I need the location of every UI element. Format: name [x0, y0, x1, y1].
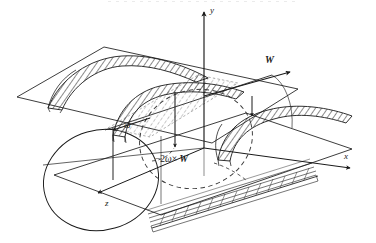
vector-label-w: W: [265, 55, 274, 65]
axis-label-y: y: [210, 6, 214, 15]
coriolis-vector: W: [180, 154, 188, 164]
vector-label-omega: ω: [124, 121, 130, 130]
diagram-canvas: [0, 0, 376, 243]
figure-container: y x z W ω −2ω× W: [0, 0, 376, 243]
axis-label-x: x: [344, 152, 348, 161]
coriolis-omega: ω: [165, 154, 172, 164]
coriolis-prefix: −2: [155, 154, 165, 164]
coriolis-term-label: −2ω× W: [155, 155, 188, 165]
coriolis-cross: ×: [172, 154, 177, 164]
axis-label-z: z: [105, 199, 109, 208]
